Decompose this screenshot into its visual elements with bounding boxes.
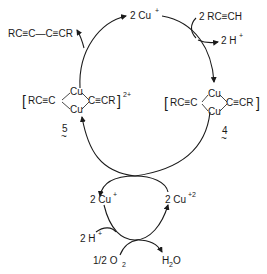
svg-text:[: [ bbox=[22, 93, 26, 109]
svg-text:+: + bbox=[98, 230, 102, 237]
catalyst-top: 2 Cu + bbox=[130, 7, 159, 21]
arc-cu1-to-bottom bbox=[104, 205, 135, 240]
svg-text:2 H: 2 H bbox=[221, 35, 237, 46]
proton-byproduct: 2 H + bbox=[221, 32, 243, 46]
water-product: H 2 O bbox=[162, 255, 181, 268]
arc-cu-to-4 bbox=[162, 16, 214, 82]
svg-text:+: + bbox=[155, 7, 159, 14]
proton-inner: 2 H + bbox=[80, 230, 102, 244]
svg-text:+: + bbox=[239, 32, 243, 39]
svg-text:2 Cu: 2 Cu bbox=[130, 10, 151, 21]
arc-bottom-to-5 bbox=[82, 117, 135, 176]
svg-text:1/2 O: 1/2 O bbox=[93, 255, 118, 266]
arc-cu2-to-top bbox=[135, 176, 168, 192]
arc-top-to-cu1 bbox=[100, 176, 135, 196]
svg-text:Cu: Cu bbox=[208, 88, 221, 99]
svg-text:2 H: 2 H bbox=[80, 233, 96, 244]
arc-substrate-in bbox=[192, 18, 197, 38]
svg-text:]: ] bbox=[117, 93, 121, 109]
svg-text:O: O bbox=[173, 255, 181, 266]
arc-bottom-to-cu2 bbox=[135, 205, 168, 240]
svg-text:C≡CR: C≡CR bbox=[226, 97, 254, 108]
svg-text:+2: +2 bbox=[188, 191, 196, 198]
cu-plus2-inner: 2 Cu +2 bbox=[165, 191, 196, 205]
inner-cycle bbox=[96, 176, 168, 255]
substrate-alkyne: 2 RC≡CH bbox=[199, 11, 242, 22]
svg-text:Cu: Cu bbox=[208, 106, 221, 117]
svg-text:2: 2 bbox=[122, 261, 126, 268]
cu-plus-inner: 2 Cu + bbox=[90, 191, 117, 205]
svg-text:2+: 2+ bbox=[123, 91, 131, 98]
svg-text:~: ~ bbox=[221, 133, 227, 144]
arc-water-out bbox=[138, 240, 162, 252]
product-diyne: RC≡C—C≡CR bbox=[8, 28, 73, 39]
svg-text:+: + bbox=[113, 191, 117, 198]
svg-text:RC≡C: RC≡C bbox=[28, 95, 56, 106]
svg-text:]: ] bbox=[256, 95, 260, 111]
svg-text:2 Cu: 2 Cu bbox=[90, 194, 111, 205]
svg-text:Cu: Cu bbox=[70, 104, 83, 115]
arc-4-to-bottom bbox=[135, 112, 210, 176]
svg-text:RC≡C: RC≡C bbox=[170, 97, 198, 108]
complex-5: [ RC≡C Cu Cu C≡CR ] 2+ 5 ~ bbox=[22, 86, 131, 142]
arc-product-release bbox=[77, 30, 84, 48]
oxygen-reactant: 1/2 O 2 bbox=[93, 255, 126, 268]
catalytic-cycle-diagram: RC≡C—C≡CR 2 Cu + 2 RC≡CH 2 H + [ RC≡C Cu… bbox=[0, 0, 267, 274]
svg-text:~: ~ bbox=[61, 131, 67, 142]
svg-text:C≡CR: C≡CR bbox=[88, 95, 116, 106]
svg-text:[: [ bbox=[164, 95, 168, 111]
complex-4: [ RC≡C Cu Cu C≡CR ] 4 ~ bbox=[164, 88, 260, 144]
arc-oxygen-in bbox=[120, 240, 138, 255]
svg-text:Cu: Cu bbox=[70, 86, 83, 97]
arc-5-to-cu-top bbox=[80, 16, 126, 88]
svg-text:2 Cu: 2 Cu bbox=[165, 194, 186, 205]
